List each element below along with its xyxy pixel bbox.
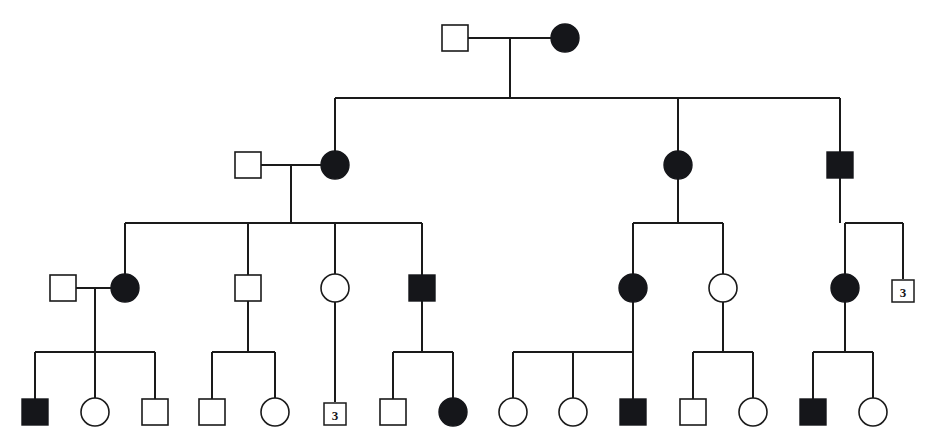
individual-III-3-square-unaffected[interactable] [235, 275, 261, 301]
individual-IV-11-square-affected[interactable] [620, 399, 646, 425]
individual-IV-2-circle-unaffected[interactable] [81, 398, 109, 426]
individual-IV-9-circle-unaffected[interactable] [499, 398, 527, 426]
individual-IV-15-circle-unaffected[interactable] [859, 398, 887, 426]
individual-IV-3-square-unaffected[interactable] [142, 399, 168, 425]
individual-II-3-circle-affected[interactable] [664, 151, 692, 179]
individual-II-1-square-unaffected[interactable] [235, 152, 261, 178]
individual-IV-10-circle-unaffected[interactable] [559, 398, 587, 426]
individual-I-2-circle-affected[interactable] [551, 24, 579, 52]
sibship-count-label: 3 [332, 408, 339, 423]
individual-III-8-circle-affected[interactable] [831, 274, 859, 302]
individual-IV-1-square-affected[interactable] [22, 399, 48, 425]
individual-I-1-square-unaffected[interactable] [442, 25, 468, 51]
individual-III-4-circle-unaffected[interactable] [321, 274, 349, 302]
individual-III-2-circle-affected[interactable] [111, 274, 139, 302]
individual-II-2-circle-affected[interactable] [321, 151, 349, 179]
individual-III-7-circle-unaffected[interactable] [709, 274, 737, 302]
individual-IV-8-circle-affected[interactable] [439, 398, 467, 426]
individual-IV-4-square-unaffected[interactable] [199, 399, 225, 425]
sibship-count-box-IV-6[interactable]: 3 [324, 403, 346, 425]
individual-IV-14-square-affected[interactable] [800, 399, 826, 425]
pedigree-canvas: 33 [0, 0, 940, 448]
individual-III-1-square-unaffected[interactable] [50, 275, 76, 301]
individual-II-4-square-affected[interactable] [827, 152, 853, 178]
individual-IV-7-square-unaffected[interactable] [380, 399, 406, 425]
individual-III-5-square-affected[interactable] [409, 275, 435, 301]
sibship-count-label: 3 [900, 285, 907, 300]
individual-III-6-circle-affected[interactable] [619, 274, 647, 302]
connector-lines-layer [35, 38, 903, 402]
individual-IV-12-square-unaffected[interactable] [680, 399, 706, 425]
individual-IV-13-circle-unaffected[interactable] [739, 398, 767, 426]
sibship-count-box-III-9[interactable]: 3 [892, 280, 914, 302]
individual-IV-5-circle-unaffected[interactable] [261, 398, 289, 426]
pedigree-chart: 33 [0, 0, 940, 448]
